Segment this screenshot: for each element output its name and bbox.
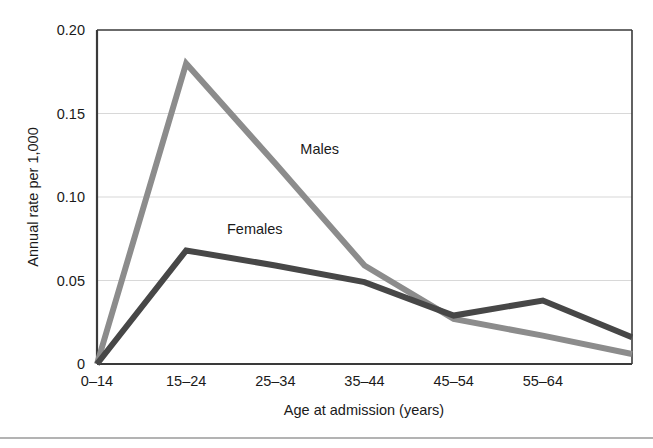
y-axis-tick-labels: 0.200.150.100.050: [57, 22, 85, 372]
line-chart: 0.200.150.100.050 0–1415–2425–3435–4445–…: [0, 0, 653, 448]
x-tick-label: 15–24: [166, 373, 206, 389]
y-axis-title: Annual rate per 1,000: [25, 127, 41, 266]
y-tick-label: 0.15: [57, 106, 85, 122]
x-tick-label: 55–64: [523, 373, 563, 389]
x-axis-tick-labels: 0–1415–2425–3435–4445–5455–64: [81, 373, 563, 389]
x-tick-label: 0–14: [81, 373, 113, 389]
y-tick-label: 0.20: [57, 22, 85, 38]
x-tick-label: 25–34: [255, 373, 295, 389]
figure-container: 0.200.150.100.050 0–1415–2425–3435–4445–…: [0, 0, 653, 448]
y-tick-label: 0.10: [57, 189, 85, 205]
annotation-females: Females: [227, 221, 283, 237]
annotation-males: Males: [300, 141, 339, 157]
y-tick-label: 0.05: [57, 273, 85, 289]
y-tick-label: 0: [77, 356, 85, 372]
x-tick-label: 35–44: [344, 373, 384, 389]
x-axis-title: Age at admission (years): [284, 402, 444, 418]
x-tick-label: 45–54: [434, 373, 474, 389]
